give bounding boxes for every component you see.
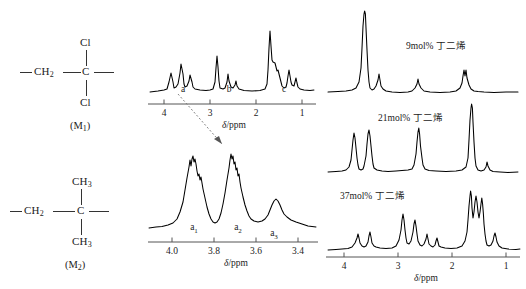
- m1-bond-top: [86, 50, 87, 66]
- panel-butadiene-series: 9mol% 丁二烯 21mol% 丁二烯 37mol% 丁二烯 4 3 2 1 …: [326, 8, 522, 278]
- structure-m2: CH3 CH2 C CH3 (M2): [10, 165, 150, 265]
- butadiene-tick-1: 1: [504, 261, 509, 271]
- series-label-9mol: 9mol% 丁二烯: [406, 38, 466, 52]
- m1-bottom-group: Cl: [80, 96, 91, 108]
- spectrum-9mol-trace: [326, 8, 522, 96]
- m2-bond-bottom: [81, 219, 82, 235]
- expanded-spectrum-tick-40: 4.0: [166, 246, 178, 256]
- full-spectrum-trace: [148, 26, 316, 96]
- expanded-spectrum-tick-34: 3.4: [292, 246, 304, 256]
- butadiene-axis-title: δ/ppm: [414, 273, 438, 283]
- butadiene-tick-4: 4: [342, 261, 347, 271]
- full-spectrum-tick-2: 2: [254, 108, 259, 118]
- structure-m1: Cl CH2 C Cl (M1): [18, 18, 148, 118]
- full-spectrum-peak-c: c: [282, 84, 286, 94]
- m1-tag: (M1): [70, 120, 90, 133]
- m2-center-atom: C: [77, 204, 85, 216]
- expanded-spectrum-peak-a2: a2: [234, 222, 242, 235]
- expanded-spectrum-tick-38: 3.8: [208, 246, 220, 256]
- m2-top-group: CH3: [72, 175, 92, 189]
- panel-expanded-spectrum: 4.0 3.8 3.6 3.4 δ/ppm a1 a2 a3: [148, 150, 318, 238]
- m2-bond-left-end: [10, 211, 22, 212]
- m2-left-group: CH2: [24, 204, 44, 218]
- expanded-spectrum-peak-a1: a1: [190, 222, 198, 235]
- m1-bond-left-end: [20, 72, 32, 73]
- expanded-spectrum-axis-title: δ/ppm: [224, 258, 248, 268]
- figure-root: Cl CH2 C Cl (M1) CH3 CH2 C CH3 (M2): [0, 0, 526, 289]
- expanded-spectrum-tick-36: 3.6: [250, 246, 262, 256]
- butadiene-tick-3: 3: [396, 261, 401, 271]
- m1-top-group: Cl: [80, 36, 91, 48]
- m1-bond-right: [94, 72, 114, 73]
- panel-full-spectrum: 4 3 2 1 δ/ppm a b c: [148, 26, 316, 96]
- series-label-37mol: 37mol% 丁二烯: [340, 188, 405, 202]
- butadiene-tick-2: 2: [450, 261, 455, 271]
- m2-bond-left: [53, 211, 75, 212]
- full-spectrum-tick-4: 4: [162, 108, 167, 118]
- m1-center-atom: C: [82, 65, 90, 77]
- m1-left-group: CH2: [34, 65, 54, 79]
- m1-bond-left: [63, 72, 81, 73]
- m2-bottom-group: CH3: [72, 235, 92, 249]
- series-label-21mol: 21mol% 丁二烯: [378, 110, 443, 124]
- m2-bond-right: [89, 211, 109, 212]
- butadiene-series-axis: [324, 251, 524, 263]
- m2-tag: (M2): [65, 259, 85, 272]
- m2-bond-top: [81, 189, 82, 205]
- full-spectrum-tick-1: 1: [300, 108, 305, 118]
- m1-bond-bottom: [86, 80, 87, 96]
- expanded-spectrum-peak-a3: a3: [270, 228, 278, 241]
